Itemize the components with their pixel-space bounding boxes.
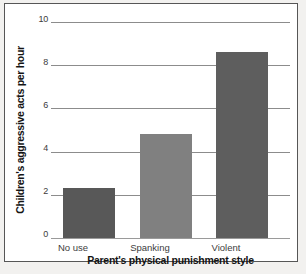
y-tick-label-2: 2 xyxy=(32,186,48,196)
x-axis-line xyxy=(51,238,290,239)
y-tick-label-10: 10 xyxy=(32,14,48,24)
chart-frame: Children's aggressive acts per hour 10 8… xyxy=(4,3,298,262)
x-axis-label: Parent's physical punishment style xyxy=(51,254,290,266)
plot-area xyxy=(51,22,290,238)
bar-violent[interactable] xyxy=(216,52,268,238)
x-tick-label-no-use: No use xyxy=(37,242,109,253)
bar-no-use[interactable] xyxy=(63,188,115,238)
y-axis-label: Children's aggressive acts per hour xyxy=(14,46,26,214)
y-tick-label-8: 8 xyxy=(32,57,48,67)
y-tick-label-4: 4 xyxy=(32,143,48,153)
gridline-10 xyxy=(51,22,290,23)
y-tick-label-6: 6 xyxy=(32,100,48,110)
x-tick-label-spanking: Spanking xyxy=(114,242,186,253)
bar-spanking[interactable] xyxy=(140,134,192,238)
figure-background: Children's aggressive acts per hour 10 8… xyxy=(0,0,306,274)
y-tick-label-0: 0 xyxy=(32,229,48,239)
x-tick-label-violent: Violent xyxy=(190,242,262,253)
y-axis-label-container: Children's aggressive acts per hour xyxy=(13,22,27,238)
